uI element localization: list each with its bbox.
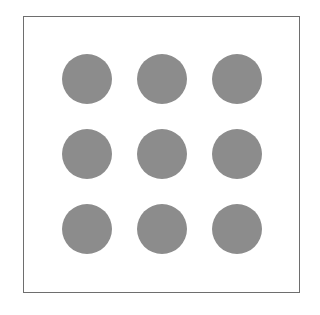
grid-dot <box>212 54 262 104</box>
grid-dot <box>212 129 262 179</box>
grid-dot <box>137 54 187 104</box>
grid-dot <box>62 204 112 254</box>
grid-dot <box>62 129 112 179</box>
grid-dot <box>137 129 187 179</box>
grid-dot <box>62 54 112 104</box>
grid-dot <box>137 204 187 254</box>
grid-dot <box>212 204 262 254</box>
grid-frame <box>23 16 300 293</box>
